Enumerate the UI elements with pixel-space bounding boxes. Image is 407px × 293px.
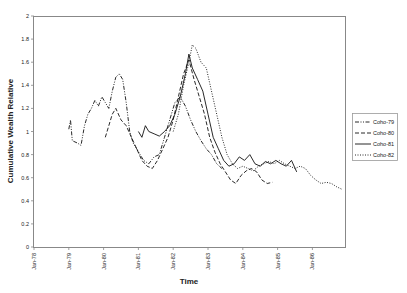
series-line-coho-79	[69, 74, 222, 169]
x-tick-label: Jan-84	[240, 253, 246, 270]
x-axis-label: Time	[180, 277, 199, 286]
x-tick-label: Jan-86	[309, 253, 315, 270]
y-tick-label: 0.4	[21, 198, 29, 204]
y-axis-label: Cumulative Wealth Relative	[6, 78, 15, 183]
x-axis: Jan-78Jan-79Jan-80Jan-81Jan-82Jan-83Jan-…	[31, 247, 315, 270]
y-axis: 00.20.40.60.811.21.41.61.82	[21, 13, 34, 250]
line-chart: 00.20.40.60.811.21.41.61.82 Jan-78Jan-79…	[0, 0, 407, 293]
y-tick-label: 0	[26, 244, 29, 250]
x-tick-label: Jan-81	[135, 253, 141, 270]
y-tick-label: 0.8	[21, 152, 29, 158]
y-tick-label: 2	[26, 13, 29, 19]
y-tick-label: 1.4	[21, 82, 29, 88]
y-tick-label: 0.6	[21, 175, 29, 181]
plot-area	[34, 17, 346, 248]
y-tick-label: 0.2	[21, 221, 29, 227]
series-lines	[69, 45, 342, 189]
x-tick-label: Jan-80	[101, 253, 107, 270]
y-tick-label: 1	[26, 129, 29, 135]
legend-label: Coho-79	[373, 119, 394, 125]
y-tick-label: 1.8	[21, 36, 29, 42]
y-tick-label: 1.2	[21, 105, 29, 111]
series-line-coho-81	[138, 54, 296, 172]
series-line-coho-80	[105, 60, 272, 184]
x-tick-label: Jan-83	[205, 253, 211, 270]
x-tick-label: Jan-79	[66, 253, 72, 270]
legend: Coho-79Coho-80Coho-81Coho-82	[353, 114, 398, 161]
series-line-coho-82	[173, 45, 342, 189]
x-tick-label: Jan-82	[170, 253, 176, 270]
legend-label: Coho-82	[373, 152, 394, 158]
legend-label: Coho-81	[373, 141, 394, 147]
y-tick-label: 1.6	[21, 59, 29, 65]
x-tick-label: Jan-78	[31, 253, 37, 270]
legend-label: Coho-80	[373, 130, 394, 136]
x-tick-label: Jan-85	[275, 253, 281, 270]
